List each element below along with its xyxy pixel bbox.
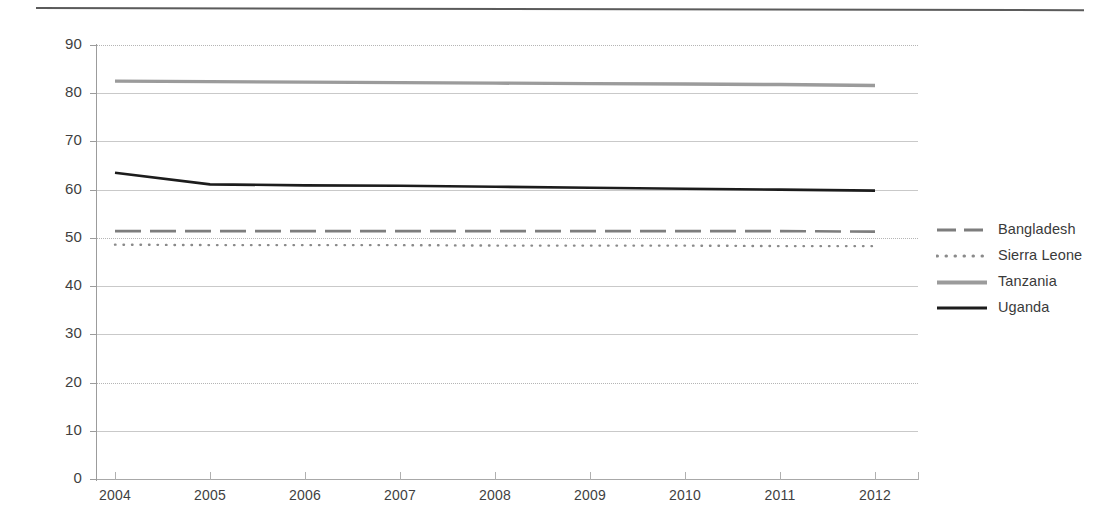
- gridline: [97, 238, 918, 239]
- x-tick-mark: [685, 472, 686, 480]
- x-tick-mark: [115, 472, 116, 480]
- y-axis-tick-label: 40: [30, 276, 82, 293]
- y-tick-mark: [90, 238, 97, 239]
- gridline: [97, 93, 918, 94]
- x-axis-tick-label: 2005: [180, 487, 240, 503]
- x-tick-mark: [780, 472, 781, 480]
- gridline: [97, 383, 918, 384]
- y-tick-mark: [90, 383, 97, 384]
- x-axis-line: [96, 479, 919, 480]
- x-axis-tick-label: 2006: [275, 487, 335, 503]
- x-axis-tick-label: 2008: [465, 487, 525, 503]
- x-tick-mark: [400, 472, 401, 480]
- y-tick-mark: [90, 286, 97, 287]
- dotted-line-icon: [936, 248, 988, 262]
- x-axis-tick-label: 2004: [85, 487, 145, 503]
- y-axis-tick-label: 50: [30, 228, 82, 245]
- y-tick-mark: [90, 45, 97, 46]
- gridline: [97, 431, 918, 432]
- y-tick-mark: [90, 431, 97, 432]
- y-tick-mark: [90, 334, 97, 335]
- x-axis-tick-label: 2007: [370, 487, 430, 503]
- gridline: [97, 45, 918, 46]
- solid-black-line-icon: [936, 300, 988, 314]
- legend-label-tanzania: Tanzania: [998, 273, 1057, 289]
- y-axis-tick-label: 30: [30, 324, 82, 341]
- y-tick-mark: [90, 190, 97, 191]
- y-axis-tick-label: 20: [30, 373, 82, 390]
- x-tick-mark: [875, 472, 876, 480]
- solid-gray-line-icon: [936, 274, 988, 288]
- legend-item-uganda[interactable]: Uganda: [936, 294, 1088, 320]
- gridline: [97, 334, 918, 335]
- legend-item-bangladesh[interactable]: Bangladesh: [936, 216, 1088, 242]
- y-axis-tick-label: 0: [30, 469, 82, 486]
- x-axis-tick-label: 2010: [655, 487, 715, 503]
- legend-label-sierra-leone: Sierra Leone: [998, 247, 1082, 263]
- y-tick-mark: [90, 93, 97, 94]
- line-chart: 0102030405060708090 20042005200620072008…: [0, 0, 1095, 530]
- x-tick-mark: [495, 472, 496, 480]
- dashed-line-icon: [936, 222, 988, 236]
- x-tick-mark: [918, 472, 919, 480]
- legend-item-tanzania[interactable]: Tanzania: [936, 268, 1088, 294]
- y-axis-tick-label: 80: [30, 83, 82, 100]
- y-axis-line: [96, 44, 97, 481]
- y-axis-tick-label: 70: [30, 131, 82, 148]
- y-tick-mark: [90, 479, 97, 480]
- chart-legend: Bangladesh Sierra Leone Tanzania: [936, 216, 1088, 320]
- legend-label-bangladesh: Bangladesh: [998, 221, 1076, 237]
- x-axis-tick-label: 2009: [560, 487, 620, 503]
- x-tick-mark: [210, 472, 211, 480]
- legend-item-sierra-leone[interactable]: Sierra Leone: [936, 242, 1088, 268]
- gridline: [97, 286, 918, 287]
- x-tick-mark: [305, 472, 306, 480]
- y-axis-tick-label: 90: [30, 35, 82, 52]
- plot-area: [97, 45, 918, 479]
- y-axis-tick-label: 10: [30, 421, 82, 438]
- y-tick-mark: [90, 141, 97, 142]
- gridline: [97, 141, 918, 142]
- x-axis-tick-label: 2012: [845, 487, 905, 503]
- x-tick-mark: [590, 472, 591, 480]
- y-axis-tick-label: 60: [30, 180, 82, 197]
- gridline: [97, 190, 918, 191]
- x-axis-tick-label: 2011: [750, 487, 810, 503]
- legend-label-uganda: Uganda: [998, 299, 1049, 315]
